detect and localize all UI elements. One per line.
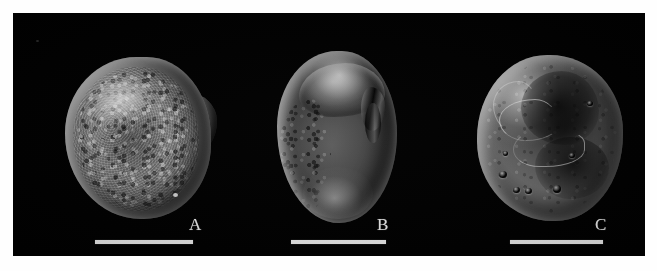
specimen-c xyxy=(469,45,631,233)
micrograph-plate: A B C xyxy=(13,13,645,256)
scale-bar-b xyxy=(291,240,386,244)
dust-speck xyxy=(36,40,39,42)
specimen-a-body xyxy=(55,45,220,231)
specimen-b-body xyxy=(269,41,409,233)
panel-label-b: B xyxy=(377,216,389,233)
specimen-c-body xyxy=(469,45,631,233)
panel-label-a: A xyxy=(189,216,202,233)
specimen-b xyxy=(269,41,409,233)
specimen-a xyxy=(55,45,220,231)
scale-bar-c xyxy=(510,240,603,244)
specimen-c-rim-highlight xyxy=(477,55,623,221)
scale-bar-a xyxy=(95,240,193,244)
specimen-a-rim-highlight xyxy=(65,57,211,219)
figure-root: A B C xyxy=(0,0,657,271)
specimen-a-pit xyxy=(173,193,178,197)
panel-label-c: C xyxy=(595,216,607,233)
